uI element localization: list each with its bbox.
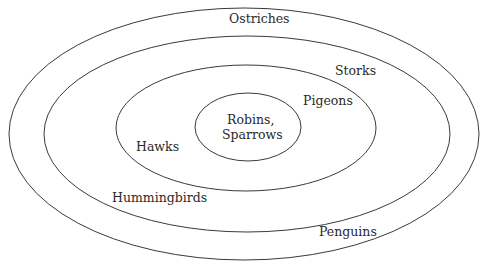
label-pigeons: Pigeons	[303, 93, 353, 108]
label-penguins: Penguins	[319, 224, 377, 239]
label-ostriches: Ostriches	[229, 11, 290, 26]
label-hawks: Hawks	[136, 139, 179, 154]
label-storks: Storks	[335, 63, 376, 78]
label-hummingbirds: Hummingbirds	[112, 190, 207, 205]
nested-ellipse-diagram: Ostriches Storks Pigeons Robins, Sparrow…	[0, 0, 491, 265]
label-robins: Robins,	[227, 112, 274, 127]
label-sparrows: Sparrows	[222, 127, 283, 142]
